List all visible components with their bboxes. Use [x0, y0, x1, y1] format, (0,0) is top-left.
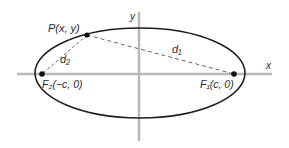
focus-f2-label: F₂(−c, 0) [42, 78, 82, 90]
point-p [84, 32, 89, 37]
focus-f2-point [39, 71, 45, 77]
y-axis-label: y [129, 11, 136, 22]
focus-f1-point [231, 71, 237, 77]
x-axis-label: x [265, 60, 272, 71]
distance-d1-label: d₁ [172, 43, 182, 55]
point-p-label: P(x, y) [48, 22, 80, 34]
ellipse-diagram: x y P(x, y) d₁ d₂ F₂(−c, 0) F₁(c, 0) [0, 0, 289, 148]
distance-d2-label: d₂ [60, 53, 71, 65]
focus-f1-label: F₁(c, 0) [200, 78, 234, 90]
